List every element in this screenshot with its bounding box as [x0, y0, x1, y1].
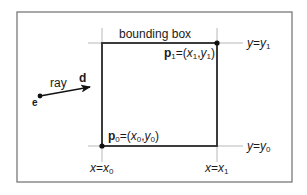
direction-label: d	[79, 71, 86, 85]
p0-point	[99, 143, 104, 148]
origin-label: e	[32, 97, 38, 108]
ray-box-diagram: bounding box p1=(x1,y1) p0=(x0,y0) y=y1 …	[0, 0, 307, 195]
ray-origin-point	[38, 94, 43, 99]
ray-label: ray	[50, 76, 67, 90]
p1-point	[214, 40, 219, 45]
bounding-box-label: bounding box	[119, 27, 191, 41]
